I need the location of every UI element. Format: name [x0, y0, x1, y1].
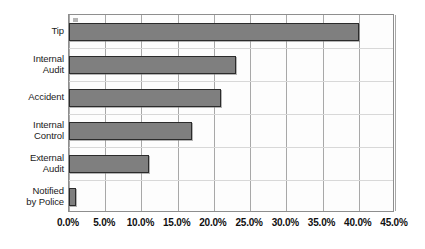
y-axis-label-line: Audit	[0, 163, 64, 174]
y-axis-label: InternalControl	[0, 119, 64, 141]
gridline-450pct	[395, 15, 396, 211]
bar-series	[69, 15, 393, 211]
y-axis-label: Tip	[0, 25, 64, 36]
bar	[69, 122, 192, 140]
x-axis-tick-label: 45.0%	[372, 216, 416, 230]
y-axis-label-line: External	[0, 152, 64, 163]
y-axis-label: ExternalAudit	[0, 152, 64, 174]
bar	[69, 23, 359, 41]
y-axis-label: Notifiedby Police	[0, 185, 64, 207]
bar	[69, 188, 76, 206]
y-axis-label-line: Tip	[0, 25, 64, 36]
bar-chart: TipInternalAuditAccidentInternalControlE…	[0, 0, 425, 249]
y-axis-label-line: Internal	[0, 119, 64, 130]
y-axis-label-line: Notified	[0, 185, 64, 196]
y-axis-label: Accident	[0, 91, 64, 102]
y-axis-label-line: by Police	[0, 196, 64, 207]
plot-area	[68, 14, 394, 212]
bar	[69, 89, 221, 107]
y-axis-label-line: Internal	[0, 53, 64, 64]
x-axis-tick-labels: 0.0%5.0%10.0%15.0%20.0%25.0%30.0%35.0%40…	[0, 216, 425, 234]
bar	[69, 155, 149, 173]
y-axis-label: InternalAudit	[0, 53, 64, 75]
y-axis-label-line: Accident	[0, 91, 64, 102]
y-axis-label-line: Control	[0, 130, 64, 141]
y-axis-label-line: Audit	[0, 64, 64, 75]
bar	[69, 56, 236, 74]
y-axis-category-labels: TipInternalAuditAccidentInternalControlE…	[0, 14, 64, 212]
